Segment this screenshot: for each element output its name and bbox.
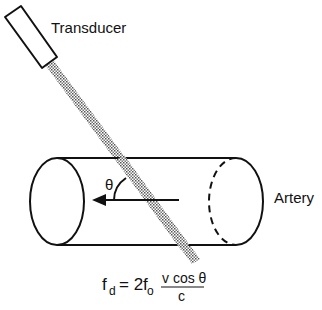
angle-arc	[114, 178, 126, 200]
equation-equals: = 2f	[119, 275, 148, 294]
transducer-label: Transducer	[51, 19, 126, 36]
doppler-equation: f d = 2f o v cos θ c	[102, 270, 207, 304]
artery-label: Artery	[274, 189, 315, 206]
transducer-probe	[5, 6, 57, 68]
blood-flow-arrow	[92, 194, 179, 206]
equation-lhs: f	[102, 275, 107, 294]
doppler-diagram: θ Transducer Artery f d = 2f o v cos θ c	[0, 0, 322, 310]
equation-rhs-subscript: o	[147, 284, 154, 298]
angle-theta-label: θ	[105, 176, 113, 193]
equation-numerator: v cos θ	[162, 270, 207, 286]
artery-far-end-dashed	[209, 158, 236, 245]
ultrasound-beam-overlay	[116, 155, 189, 250]
equation-lhs-subscript: d	[109, 284, 116, 298]
artery-far-end-solid	[236, 158, 263, 245]
equation-denominator: c	[178, 288, 185, 304]
artery-near-end	[30, 158, 84, 245]
